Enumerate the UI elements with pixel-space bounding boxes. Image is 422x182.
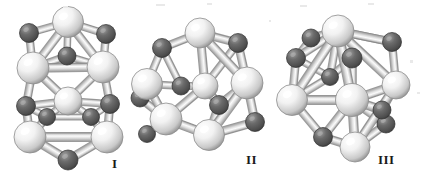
- large-light-atom: [336, 84, 369, 117]
- scan-speck: [368, 3, 374, 5]
- scan-speck: [300, 5, 307, 7]
- structure-label-ii: II: [246, 152, 257, 168]
- small-dark-atom: [383, 33, 402, 52]
- scan-speck: [63, 6, 68, 8]
- structure-drawing-iii: [0, 0, 422, 182]
- large-light-atom: [322, 15, 354, 47]
- small-dark-atom: [322, 69, 339, 86]
- large-light-atom: [277, 85, 308, 116]
- structure-label-i: I: [112, 156, 118, 172]
- atom-group: [277, 15, 411, 162]
- small-dark-atom: [342, 48, 362, 68]
- large-light-atom: [340, 132, 370, 162]
- small-dark-atom: [287, 49, 306, 68]
- large-light-atom: [382, 71, 410, 99]
- scan-speck: [207, 3, 212, 5]
- small-dark-atom: [373, 101, 391, 119]
- structure-label-iii: III: [378, 152, 395, 168]
- scan-speck: [156, 4, 165, 6]
- scan-speck: [410, 60, 413, 63]
- scan-speck: [269, 20, 271, 22]
- small-dark-atom: [302, 29, 320, 47]
- molecular-cluster-figure: I II III: [0, 0, 422, 182]
- small-dark-atom: [314, 128, 333, 147]
- scan-speck: [417, 92, 420, 94]
- structure-panel-iii: [0, 0, 422, 182]
